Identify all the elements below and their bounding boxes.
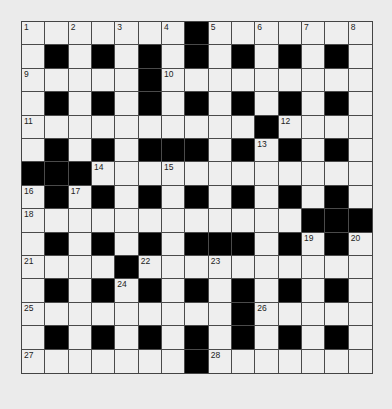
- crossword-cell[interactable]: [139, 116, 162, 139]
- crossword-cell[interactable]: [325, 22, 348, 45]
- crossword-cell[interactable]: [255, 92, 278, 115]
- crossword-cell[interactable]: [255, 326, 278, 349]
- crossword-cell[interactable]: 25: [22, 303, 45, 326]
- crossword-cell[interactable]: 8: [349, 22, 372, 45]
- crossword-cell[interactable]: [209, 92, 232, 115]
- crossword-cell[interactable]: [45, 116, 68, 139]
- crossword-cell[interactable]: [92, 303, 115, 326]
- crossword-cell[interactable]: [349, 186, 372, 209]
- crossword-cell[interactable]: [115, 45, 138, 68]
- crossword-cell[interactable]: 22: [139, 256, 162, 279]
- crossword-cell[interactable]: [69, 326, 92, 349]
- crossword-cell[interactable]: 10: [162, 69, 185, 92]
- crossword-cell[interactable]: 27: [22, 350, 45, 373]
- crossword-cell[interactable]: [115, 116, 138, 139]
- crossword-cell[interactable]: [209, 45, 232, 68]
- crossword-cell[interactable]: [209, 139, 232, 162]
- crossword-cell[interactable]: [69, 256, 92, 279]
- crossword-cell[interactable]: [92, 22, 115, 45]
- crossword-cell[interactable]: [302, 256, 325, 279]
- crossword-cell[interactable]: [22, 139, 45, 162]
- crossword-cell[interactable]: [279, 22, 302, 45]
- crossword-cell[interactable]: [69, 350, 92, 373]
- crossword-cell[interactable]: [139, 22, 162, 45]
- crossword-cell[interactable]: [209, 209, 232, 232]
- crossword-cell[interactable]: [45, 303, 68, 326]
- crossword-cell[interactable]: 1: [22, 22, 45, 45]
- crossword-cell[interactable]: [279, 162, 302, 185]
- crossword-cell[interactable]: 17: [69, 186, 92, 209]
- crossword-cell[interactable]: 15: [162, 162, 185, 185]
- crossword-cell[interactable]: [139, 209, 162, 232]
- crossword-cell[interactable]: [255, 69, 278, 92]
- crossword-cell[interactable]: 6: [255, 22, 278, 45]
- crossword-cell[interactable]: [232, 69, 255, 92]
- crossword-cell[interactable]: [232, 256, 255, 279]
- crossword-cell[interactable]: [349, 45, 372, 68]
- crossword-cell[interactable]: [302, 350, 325, 373]
- crossword-cell[interactable]: [349, 326, 372, 349]
- crossword-cell[interactable]: [185, 256, 208, 279]
- crossword-cell[interactable]: [139, 303, 162, 326]
- crossword-cell[interactable]: [92, 350, 115, 373]
- crossword-cell[interactable]: [279, 69, 302, 92]
- crossword-cell[interactable]: [115, 326, 138, 349]
- crossword-cell[interactable]: [115, 209, 138, 232]
- crossword-cell[interactable]: 13: [255, 139, 278, 162]
- crossword-cell[interactable]: [302, 92, 325, 115]
- crossword-cell[interactable]: [69, 209, 92, 232]
- crossword-cell[interactable]: [255, 233, 278, 256]
- crossword-cell[interactable]: [162, 233, 185, 256]
- crossword-cell[interactable]: 16: [22, 186, 45, 209]
- crossword-cell[interactable]: [255, 162, 278, 185]
- crossword-cell[interactable]: [255, 279, 278, 302]
- crossword-cell[interactable]: [209, 186, 232, 209]
- crossword-cell[interactable]: 5: [209, 22, 232, 45]
- crossword-cell[interactable]: [162, 326, 185, 349]
- crossword-cell[interactable]: 2: [69, 22, 92, 45]
- crossword-cell[interactable]: [92, 69, 115, 92]
- crossword-cell[interactable]: [69, 303, 92, 326]
- crossword-cell[interactable]: [302, 279, 325, 302]
- crossword-cell[interactable]: [349, 69, 372, 92]
- crossword-cell[interactable]: [232, 22, 255, 45]
- crossword-cell[interactable]: 21: [22, 256, 45, 279]
- crossword-cell[interactable]: [232, 116, 255, 139]
- crossword-cell[interactable]: [302, 69, 325, 92]
- crossword-cell[interactable]: [349, 92, 372, 115]
- crossword-cell[interactable]: [279, 350, 302, 373]
- crossword-cell[interactable]: [349, 162, 372, 185]
- crossword-cell[interactable]: [349, 139, 372, 162]
- crossword-cell[interactable]: [185, 69, 208, 92]
- crossword-cell[interactable]: [232, 162, 255, 185]
- crossword-cell[interactable]: [279, 303, 302, 326]
- crossword-cell[interactable]: [162, 350, 185, 373]
- crossword-cell[interactable]: [69, 279, 92, 302]
- crossword-cell[interactable]: [349, 279, 372, 302]
- crossword-cell[interactable]: [185, 162, 208, 185]
- crossword-cell[interactable]: [302, 326, 325, 349]
- crossword-cell[interactable]: [22, 326, 45, 349]
- crossword-cell[interactable]: [22, 45, 45, 68]
- crossword-cell[interactable]: [92, 209, 115, 232]
- crossword-cell[interactable]: [209, 69, 232, 92]
- crossword-cell[interactable]: [232, 209, 255, 232]
- crossword-cell[interactable]: [22, 92, 45, 115]
- crossword-cell[interactable]: [162, 279, 185, 302]
- crossword-cell[interactable]: [185, 116, 208, 139]
- crossword-cell[interactable]: 23: [209, 256, 232, 279]
- crossword-cell[interactable]: [115, 69, 138, 92]
- crossword-cell[interactable]: [255, 186, 278, 209]
- crossword-cell[interactable]: [162, 256, 185, 279]
- crossword-cell[interactable]: [349, 350, 372, 373]
- crossword-cell[interactable]: [69, 45, 92, 68]
- crossword-cell[interactable]: 14: [92, 162, 115, 185]
- crossword-cell[interactable]: [115, 350, 138, 373]
- crossword-cell[interactable]: [45, 350, 68, 373]
- crossword-cell[interactable]: [209, 162, 232, 185]
- crossword-cell[interactable]: [69, 139, 92, 162]
- crossword-cell[interactable]: [69, 116, 92, 139]
- crossword-cell[interactable]: 19: [302, 233, 325, 256]
- crossword-cell[interactable]: [302, 303, 325, 326]
- crossword-cell[interactable]: [115, 233, 138, 256]
